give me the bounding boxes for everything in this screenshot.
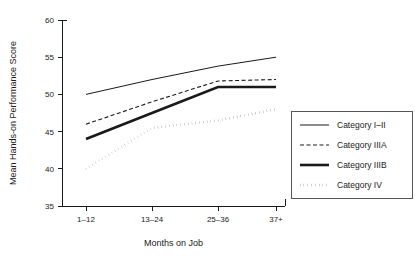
legend-label-2: Category IIIA: [337, 140, 387, 150]
y-tick-label: 40: [45, 165, 54, 174]
chart-legend: Category I–IICategory IIIACategory IIIBC…: [291, 111, 412, 198]
data-series: [86, 57, 276, 169]
x-tick-label: 13–24: [141, 215, 164, 224]
x-tick-label: 1–12: [77, 215, 95, 224]
legend-label-4: Category IV: [337, 180, 382, 190]
y-tick-label: 50: [45, 90, 54, 99]
x-tick-label: 37+: [269, 215, 283, 224]
y-tick-label: 35: [45, 202, 54, 211]
y-axis-title: Mean Hands-on Performance Score: [8, 41, 18, 185]
axes: [58, 20, 285, 211]
series-line-category-iiib: [86, 87, 276, 139]
x-axis-title: Months on Job: [144, 238, 203, 248]
y-tick-label: 55: [45, 53, 54, 62]
y-tick-label: 45: [45, 128, 54, 137]
x-tick-label: 25–36: [207, 215, 230, 224]
line-chart: 3540455055601–1213–2425–3637+Months on J…: [0, 0, 415, 257]
axis-labels: 3540455055601–1213–2425–3637+Months on J…: [8, 16, 283, 248]
legend-label-3: Category IIIB: [337, 160, 387, 170]
series-line-category-iv: [86, 109, 276, 169]
y-tick-label: 60: [45, 16, 54, 25]
chart-figure: 3540455055601–1213–2425–3637+Months on J…: [0, 0, 415, 257]
legend-label-1: Category I–II: [337, 120, 386, 130]
series-line-category-i-ii: [86, 57, 276, 94]
